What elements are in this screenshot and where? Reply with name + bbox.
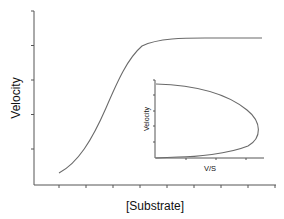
chart: Velocity [Substrate] Velocity V/S — [0, 0, 284, 219]
inset-x-label: V/S — [204, 164, 216, 173]
inset-chart: Velocity V/S — [143, 80, 264, 173]
main-x-label: [Substrate] — [126, 199, 184, 213]
main-y-label: Velocity — [9, 77, 23, 118]
main-curve — [59, 38, 262, 173]
inset-curve — [156, 84, 258, 158]
inset-y-label: Velocity — [143, 106, 151, 131]
